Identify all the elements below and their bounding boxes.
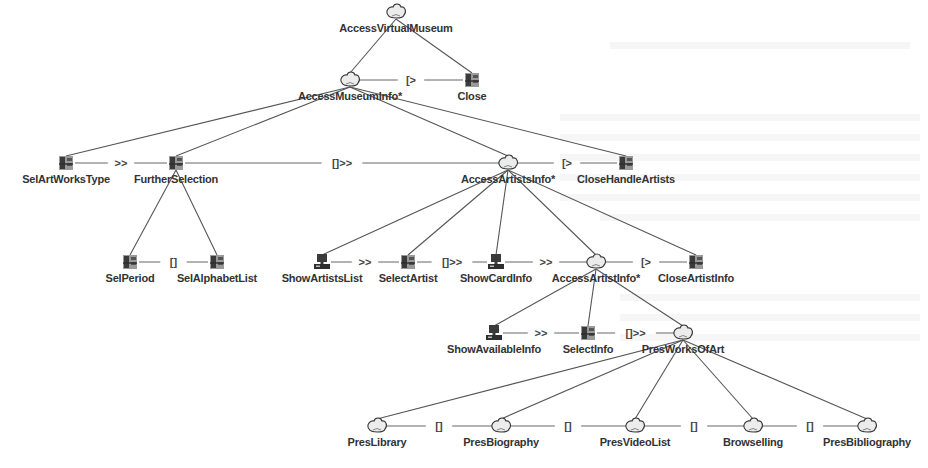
temporal-operator: >> [331, 256, 399, 268]
task-label: PresWorksOfArt [642, 343, 725, 355]
task-label: AccessArtistInfo* [552, 272, 641, 284]
user-interaction-icon [401, 255, 415, 269]
task-label: PresVideoList [600, 436, 671, 448]
operator-symbol: >> [540, 256, 553, 268]
cloud-icon [492, 418, 510, 432]
task-label: ShowArtistsList [282, 272, 363, 284]
temporal-operator: >> [75, 157, 167, 169]
computer-icon [314, 254, 330, 269]
operator-symbol: >> [115, 157, 128, 169]
operator-symbol: >> [535, 327, 548, 339]
task-label: AccessArtistsInfo* [461, 173, 556, 185]
task-node-select-info: SelectInfo [563, 326, 614, 355]
temporal-operator: [] [386, 420, 492, 432]
bleed-through-text [600, 214, 920, 221]
user-interaction-icon [689, 255, 703, 269]
operator-symbol: [> [406, 74, 416, 86]
temporal-operator: [] [510, 420, 626, 432]
task-node-pres-video-list: PresVideoList [600, 418, 671, 448]
task-node-close-artist-info: CloseArtistInfo [658, 255, 734, 284]
task-label: SelectArtist [379, 272, 438, 284]
computer-icon [488, 254, 504, 269]
temporal-operator: []>> [417, 256, 487, 268]
bleed-through-text [560, 154, 920, 161]
background-bleed-through [560, 42, 920, 341]
task-label: FurtherSelection [134, 173, 219, 185]
temporal-operator: >> [503, 327, 579, 339]
bleed-through-text [620, 334, 920, 341]
task-label: CloseHandleArtists [577, 173, 675, 185]
task-model-diagram: [>>>[]>>[>[]>>[]>>>>[>>>[]>>[][][][] Acc… [0, 0, 928, 468]
cloud-icon [858, 418, 876, 432]
task-label: SelPeriod [106, 272, 155, 284]
task-label: Browselling [723, 436, 783, 448]
cloud-icon [674, 325, 692, 339]
operator-symbol: []>> [442, 256, 462, 268]
task-label: ShowCardInfo [460, 272, 533, 284]
temporal-operator: [] [139, 256, 208, 268]
operator-symbol: [] [806, 420, 814, 432]
operator-symbol: [] [564, 420, 572, 432]
operator-symbol: []>> [625, 327, 645, 339]
temporal-operators: [>>>[]>>[>[]>>[]>>>>[>>>[]>>[][][][] [75, 74, 858, 432]
temporal-operator: [> [605, 256, 687, 268]
task-label: PresLibrary [348, 436, 408, 448]
temporal-operator: >> [505, 256, 587, 268]
user-interaction-icon [169, 156, 183, 170]
cloud-icon [341, 72, 359, 86]
cloud-icon [744, 418, 762, 432]
operator-symbol: [] [435, 420, 443, 432]
temporal-operator: [] [644, 420, 744, 432]
bleed-through-text [560, 114, 920, 121]
task-node-select-artist: SelectArtist [379, 255, 438, 284]
user-interaction-icon [465, 73, 479, 87]
task-label: SelAlphabetList [177, 272, 258, 284]
task-label: SelArtWorksType [22, 173, 110, 185]
bleed-through-text [620, 294, 920, 301]
user-interaction-icon [123, 255, 137, 269]
task-label: SelectInfo [563, 343, 614, 355]
bleed-through-text [560, 194, 920, 201]
cloud-icon [626, 418, 644, 432]
user-interaction-icon [619, 156, 633, 170]
task-node-browselling: Browselling [723, 418, 783, 448]
operator-symbol: [] [690, 420, 698, 432]
task-node-pres-bibliography: PresBibliography [823, 418, 912, 448]
task-node-show-artists-list: ShowArtistsList [282, 254, 363, 284]
task-label: CloseArtistInfo [658, 272, 734, 284]
bleed-through-text [620, 314, 920, 321]
task-node-close: Close [458, 73, 487, 102]
cloud-icon [587, 254, 605, 268]
task-label: PresBiography [463, 436, 540, 448]
task-node-sel-period: SelPeriod [106, 255, 155, 284]
cloud-icon [387, 4, 405, 18]
operator-symbol: >> [359, 256, 372, 268]
computer-icon [486, 325, 502, 340]
task-node-pres-library: PresLibrary [348, 418, 408, 448]
user-interaction-icon [581, 326, 595, 340]
task-node-pres-biography: PresBiography [463, 418, 540, 448]
task-node-show-available-info: ShowAvailableInfo [447, 325, 541, 355]
operator-symbol: [> [562, 157, 572, 169]
cloud-icon [499, 155, 517, 169]
user-interaction-icon [59, 156, 73, 170]
temporal-operator: []>> [185, 157, 499, 169]
task-label: AccessMuseumInfo* [298, 90, 403, 102]
temporal-operator: [] [762, 420, 858, 432]
temporal-operator: [> [359, 74, 463, 86]
task-node-sel-alphabet-list: SelAlphabetList [177, 255, 258, 284]
user-interaction-icon [210, 255, 224, 269]
bleed-through-text [610, 42, 910, 49]
operator-symbol: [] [170, 256, 178, 268]
task-label: Close [458, 90, 487, 102]
cloud-icon [368, 418, 386, 432]
operator-symbol: []>> [332, 157, 352, 169]
task-label: ShowAvailableInfo [447, 343, 541, 355]
task-node-sel-art-works-type: SelArtWorksType [22, 156, 110, 185]
bleed-through-text [560, 134, 920, 141]
operator-symbol: [> [641, 256, 651, 268]
task-label: AccessVirtualMuseum [339, 22, 453, 34]
task-node-show-card-info: ShowCardInfo [460, 254, 533, 284]
task-label: PresBibliography [823, 436, 912, 448]
